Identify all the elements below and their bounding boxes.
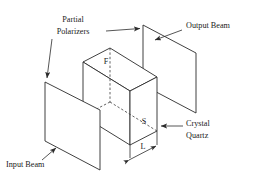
slow-axis-label: S — [142, 117, 147, 126]
quartz-label: Quartz — [186, 131, 209, 140]
crystal-label: Crystal — [186, 119, 210, 128]
partial-polarizers-to-output-leader — [106, 29, 140, 32]
diagram-canvas: Partial Polarizers Output Beam Input Bea… — [0, 0, 256, 180]
output-beam-label: Output Beam — [186, 21, 231, 30]
partial-label: Partial — [62, 15, 84, 24]
optical-diagram-svg: Partial Polarizers Output Beam Input Bea… — [0, 0, 256, 180]
partial-polarizers-to-input-leader — [47, 39, 52, 78]
length-label: L — [140, 142, 145, 151]
fast-axis-label: F — [104, 57, 109, 66]
input-beam-label: Input Beam — [6, 160, 45, 169]
polarizers-label: Polarizers — [57, 27, 90, 36]
input-beam-leader — [42, 148, 56, 160]
